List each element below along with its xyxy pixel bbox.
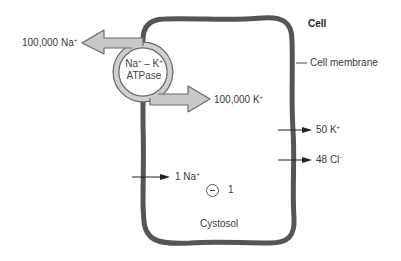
cl-leak-charge: − [339,154,343,160]
negative-charge-icon [206,184,219,197]
atpase-name: ATPase [127,70,162,81]
cytosol-label: Cystosol [200,218,238,230]
cell-membrane-label: Cell membrane [310,57,378,69]
cell-membrane [143,18,294,244]
k-influx-label: 100,000 K+ [214,94,263,106]
na-efflux-count: 100,000 Na [22,37,74,48]
na-leak-label: 1 Na+ [175,171,200,183]
k-influx-charge: + [260,94,264,100]
k-leak-label: 50 K+ [316,124,340,136]
na-efflux-charge: + [74,37,78,43]
atpase-k: – K [142,58,160,69]
atpase-label: Na+ – K+ ATPase [118,58,170,82]
k-leak-count: 50 K [316,124,337,135]
cl-leak-count: 48 Cl [316,154,339,165]
net-charge-value: 1 [228,184,234,196]
k-influx-count: 100,000 K [214,94,260,105]
na-leak-arrow [132,174,170,180]
na-leak-charge: + [196,171,200,177]
k-leak-charge: + [337,124,341,130]
cell-title: Cell [308,18,326,30]
atpase-k-charge: + [159,58,163,64]
na-efflux-label: 100,000 Na+ [22,37,77,49]
atpase-na: Na [125,58,138,69]
cl-leak-label: 48 Cl− [316,154,343,166]
na-leak-count: 1 Na [175,171,196,182]
